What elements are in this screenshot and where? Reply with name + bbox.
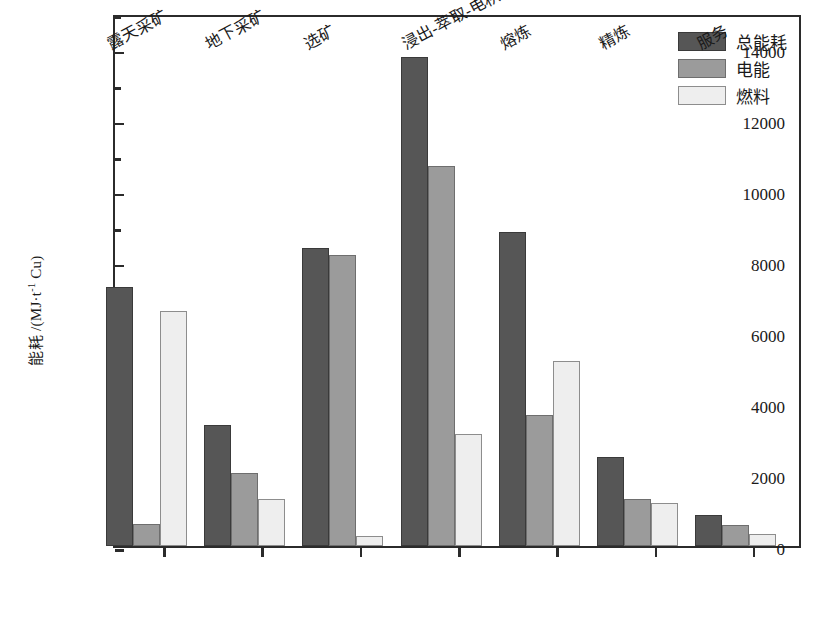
bar-露天采矿-总能耗 (106, 287, 133, 546)
y-axis-tick-label: 12000 (743, 114, 786, 134)
x-axis-tick (261, 546, 264, 557)
bar-选矿-燃料 (356, 536, 383, 546)
bar-熔炼-燃料 (553, 361, 580, 546)
legend-swatch-fuel (678, 86, 726, 105)
x-axis-label-熔炼: 熔炼 (495, 18, 535, 54)
bar-地下采矿-燃料 (258, 499, 285, 546)
y-axis-title-main: 能耗 /(MJ·t (28, 292, 44, 366)
bar-服务-电能 (722, 525, 749, 546)
x-axis-tick (753, 546, 756, 557)
bar-精炼-电能 (624, 499, 651, 546)
bar-服务-燃料 (749, 534, 776, 546)
bar-浸出-萃取-电积-燃料 (455, 434, 482, 546)
bar-熔炼-总能耗 (499, 232, 526, 546)
bar-露天采矿-电能 (133, 524, 160, 546)
x-axis-tick (556, 546, 559, 557)
bar-浸出-萃取-电积-电能 (428, 166, 455, 546)
legend: 总能耗 电能 燃料 (678, 29, 787, 108)
x-axis-label-选矿: 选矿 (299, 18, 339, 54)
bar-选矿-总能耗 (302, 248, 329, 546)
x-axis-label-浸出-萃取-电积: 浸出-萃取-电积 (397, 0, 504, 54)
y-axis-tick-label: 0 (777, 540, 786, 560)
bar-精炼-总能耗 (597, 457, 624, 546)
x-axis-tick (655, 546, 658, 557)
bar-服务-总能耗 (695, 515, 722, 546)
legend-swatch-electricity (678, 59, 726, 78)
plot-area: 总能耗 电能 燃料 020004000600080001000012000140… (113, 15, 801, 548)
bar-地下采矿-电能 (231, 473, 258, 546)
y-axis-title: 能耗 /(MJ·t-1 Cu) (24, 181, 45, 441)
y-axis-title-tail: Cu) (28, 255, 44, 282)
bar-精炼-燃料 (651, 503, 678, 546)
bar-地下采矿-总能耗 (204, 425, 231, 546)
x-axis-tick (458, 546, 461, 557)
x-axis-label-精炼: 精炼 (594, 18, 634, 54)
plot-inner: 总能耗 电能 燃料 020004000600080001000012000140… (115, 17, 799, 546)
bar-选矿-电能 (329, 255, 356, 546)
x-axis-tick (360, 546, 363, 557)
y-axis-tick-label: 8000 (751, 256, 785, 276)
bar-浸出-萃取-电积-总能耗 (401, 57, 428, 546)
legend-item: 燃料 (678, 83, 787, 108)
y-axis-tick-label: 14000 (743, 43, 786, 63)
y-axis-tick-label: 10000 (743, 185, 786, 205)
y-axis-tick-label: 6000 (751, 327, 785, 347)
y-axis-title-superscript: -1 (26, 283, 37, 292)
y-axis-tick-label: 4000 (751, 398, 785, 418)
y-axis-tick-label: 2000 (751, 469, 785, 489)
x-axis-label-地下采矿: 地下采矿 (200, 3, 268, 55)
x-axis-label-露天采矿: 露天采矿 (102, 3, 170, 55)
bar-露天采矿-燃料 (160, 311, 187, 546)
legend-label-fuel: 燃料 (736, 83, 770, 108)
energy-consumption-bar-chart: 能耗 /(MJ·t-1 Cu) 总能耗 电能 燃料 02000400060008… (0, 0, 814, 630)
x-axis-tick (163, 546, 166, 557)
bar-熔炼-电能 (526, 415, 553, 546)
